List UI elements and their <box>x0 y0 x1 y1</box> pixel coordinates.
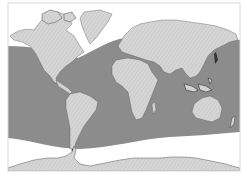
world-map <box>0 0 247 181</box>
